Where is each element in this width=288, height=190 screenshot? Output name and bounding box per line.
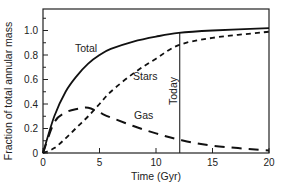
series-label-gas: Gas	[134, 109, 153, 121]
today-label: Today	[167, 76, 179, 105]
x-axis-title: Time (Gyr)	[131, 170, 181, 182]
series-gas-line	[43, 107, 269, 153]
y-tick-label: 0	[32, 148, 38, 159]
y-axis-title: Fraction of total annular mass	[2, 22, 14, 160]
y-axis-ticks	[43, 18, 48, 153]
y-tick-label: 0.8	[24, 50, 38, 61]
y-tick-label: 0.4	[24, 99, 38, 110]
series-label-total: Total	[75, 42, 97, 54]
chart: 0 0.2 0.4 0.6 0.8 1.0 0 5 10 15 20 Time …	[0, 0, 288, 190]
series-label-stars: Stars	[133, 70, 158, 82]
x-tick-label: 5	[97, 157, 103, 168]
y-tick-label: 0.6	[24, 74, 38, 85]
y-tick-label: 0.2	[24, 123, 38, 134]
x-tick-label: 20	[263, 157, 275, 168]
y-tick-label: 1.0	[24, 25, 38, 36]
x-tick-label: 0	[40, 157, 46, 168]
x-tick-label: 15	[207, 157, 219, 168]
x-tick-label: 10	[150, 157, 162, 168]
